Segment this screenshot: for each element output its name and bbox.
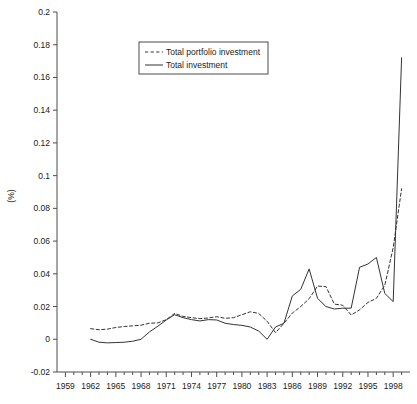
x-axis-tick-label: 1992 xyxy=(333,381,352,391)
x-axis-tick-label: 1959 xyxy=(56,381,75,391)
x-axis-tick-label: 1962 xyxy=(81,381,100,391)
y-axis-tick-label: 0.2 xyxy=(38,7,50,17)
x-axis-tick-label: 1989 xyxy=(308,381,327,391)
y-axis-tick-label: 0.04 xyxy=(33,269,50,279)
x-axis-tick-label: 1980 xyxy=(232,381,251,391)
y-axis-tick-label: -0.02 xyxy=(31,367,51,377)
y-axis-tick-label: 0 xyxy=(45,334,50,344)
x-axis-tick-label: 1974 xyxy=(182,381,201,391)
y-axis-tick-label: 0.14 xyxy=(33,105,50,115)
y-axis-tick-label: 0.16 xyxy=(33,72,50,82)
y-axis-title: (%) xyxy=(6,189,16,202)
chart-legend: Total portfolio investmentTotal investme… xyxy=(139,42,268,74)
x-axis-tick-label: 1986 xyxy=(283,381,302,391)
y-axis-tick-label: 0.06 xyxy=(33,236,50,246)
chart-container: -0.0200.020.040.060.080.10.120.140.160.1… xyxy=(0,0,417,404)
legend-label-2: Total investment xyxy=(166,60,228,70)
legend-label-1: Total portfolio investment xyxy=(166,47,261,57)
x-axis-tick-label: 1998 xyxy=(384,381,403,391)
x-axis-tick-label: 1971 xyxy=(157,381,176,391)
y-axis-tick-label: 0.1 xyxy=(38,171,50,181)
investment-line-chart: -0.0200.020.040.060.080.10.120.140.160.1… xyxy=(0,0,417,404)
x-axis-tick-label: 1995 xyxy=(359,381,378,391)
y-axis-tick-label: 0.08 xyxy=(33,203,50,213)
x-axis-tick-label: 1977 xyxy=(207,381,226,391)
x-axis-tick-label: 1965 xyxy=(106,381,125,391)
x-axis-tick-label: 1968 xyxy=(132,381,151,391)
y-axis-tick-label: 0.18 xyxy=(33,40,50,50)
y-axis-tick-label: 0.12 xyxy=(33,138,50,148)
y-axis-tick-label: 0.02 xyxy=(33,302,50,312)
x-axis-tick-label: 1983 xyxy=(258,381,277,391)
